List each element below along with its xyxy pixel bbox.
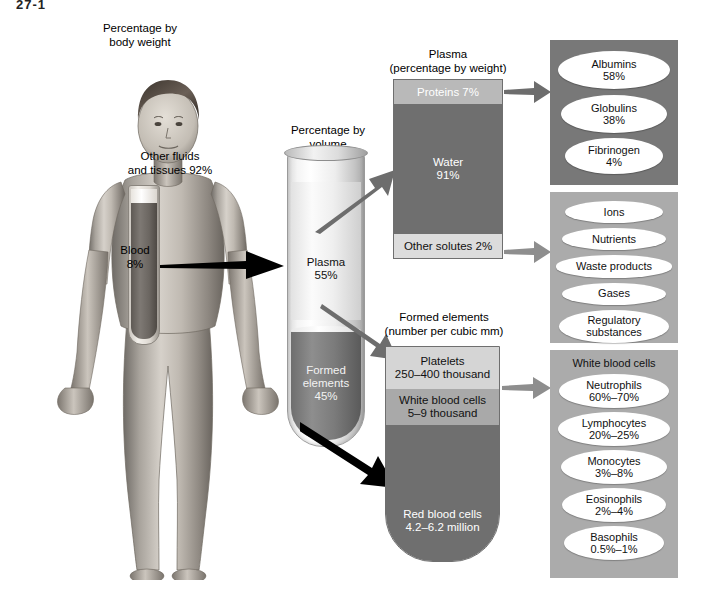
gases-name: Gases [598, 287, 630, 300]
formed-caption-line2: (number per cubic mm) [368, 325, 520, 339]
rbc-value: 4.2–6.2 million [403, 521, 482, 534]
plasma-proteins-panel: Albumins 58% Globulins 38% Fibrinogen 4% [550, 40, 678, 185]
lymphocytes-value: 20%–25% [589, 429, 639, 442]
blood-label-line1: Blood [105, 244, 165, 258]
nutrients-name: Nutrients [592, 233, 636, 246]
tube-plasma-value: 55% [287, 269, 365, 282]
ions-name: Ions [604, 206, 625, 219]
formed-segment-red-blood-cells: Red blood cells 4.2–6.2 million [386, 425, 499, 561]
regulatory-name: Regulatory [587, 314, 640, 327]
plasma-caption-line1: Plasma [378, 48, 518, 62]
fibrinogen-value: 4% [606, 156, 622, 169]
wbc-value: 5–9 thousand [399, 407, 486, 420]
neutrophils-value: 60%–70% [589, 391, 639, 404]
monocytes-name: Monocytes [587, 455, 640, 468]
globulins-name: Globulins [591, 102, 637, 115]
other-fluids-line1: Other fluids [95, 150, 245, 164]
pill-basophils: Basophils 0.5%–1% [564, 526, 664, 560]
basophils-value: 0.5%–1% [590, 543, 637, 556]
plasma-solutes-label: Other solutes 2% [404, 240, 492, 253]
fibrinogen-name: Fibrinogen [588, 144, 640, 157]
plasma-segment-other-solutes: Other solutes 2% [394, 234, 502, 258]
arrow-tube-to-plasma-box [313, 168, 397, 236]
basophils-name: Basophils [590, 531, 638, 544]
tube-formed-label: Formed elements 45% [287, 364, 365, 403]
plasma-segment-water: Water 91% [394, 104, 502, 234]
tube-rim [284, 145, 368, 161]
blood-label-line2: 8% [105, 258, 165, 272]
human-body-illustration [55, 70, 285, 580]
figure-number: 27-1 [16, 0, 46, 9]
platelets-label: Platelets [395, 355, 490, 368]
globulins-value: 38% [603, 114, 625, 127]
pill-neutrophils: Neutrophils 60%–70% [559, 374, 669, 408]
albumins-value: 58% [603, 70, 625, 83]
plasma-caption-line2: (percentage by weight) [378, 62, 518, 76]
pill-monocytes: Monocytes 3%–8% [561, 450, 667, 484]
plasma-water-label: Water [433, 156, 463, 169]
pill-fibrinogen: Fibrinogen 4% [565, 138, 663, 174]
plasma-composition-bar: Proteins 7% Water 91% Other solutes 2% [393, 79, 503, 259]
white-blood-cells-panel: White blood cells Neutrophils 60%–70% Ly… [550, 350, 678, 578]
neutrophils-name: Neutrophils [586, 379, 642, 392]
formed-caption-line1: Formed elements [368, 311, 520, 325]
body-caption-line1: Percentage by [60, 22, 220, 36]
plasma-proteins-label: Proteins 7% [417, 86, 479, 99]
plasma-water-value: 91% [433, 169, 463, 182]
monocytes-value: 3%–8% [595, 467, 633, 480]
body-caption-line2: body weight [60, 36, 220, 50]
plasma-box-caption: Plasma (percentage by weight) [378, 48, 518, 75]
wbc-label: White blood cells [399, 394, 486, 407]
pill-ions: Ions [565, 201, 663, 223]
pill-waste-products: Waste products [556, 255, 672, 277]
wbc-panel-title: White blood cells [572, 357, 655, 370]
lymphocytes-name: Lymphocytes [582, 417, 646, 430]
pill-albumins: Albumins 58% [558, 51, 670, 89]
arrow-wbc-to-panel [502, 376, 552, 400]
pill-gases: Gases [562, 283, 666, 305]
formed-box-caption: Formed elements (number per cubic mm) [368, 311, 520, 338]
pill-regulatory-substances: Regulatory substances [559, 310, 669, 343]
arrow-solutes-to-panel [504, 240, 552, 264]
label-other-fluids-tissues: Other fluids and tissues 92% [95, 150, 245, 177]
formed-elements-bar: Platelets 250–400 thousand White blood c… [385, 346, 500, 562]
other-solutes-panel: Ions Nutrients Waste products Gases Regu… [550, 192, 678, 343]
eosinophils-name: Eosinophils [586, 493, 642, 506]
plasma-segment-proteins: Proteins 7% [394, 80, 502, 104]
tube-caption-line1: Percentage by [282, 124, 374, 138]
tube-formed-line2: elements [287, 377, 365, 390]
eosinophils-value: 2%–4% [595, 505, 633, 518]
label-blood-percentage: Blood 8% [105, 244, 165, 271]
pill-lymphocytes: Lymphocytes 20%–25% [558, 412, 670, 446]
arrow-tube-bottom-to-formed-box [300, 420, 398, 492]
tube-formed-value: 45% [287, 390, 365, 403]
tube-formed-line1: Formed [287, 364, 365, 377]
formed-segment-platelets: Platelets 250–400 thousand [386, 347, 499, 389]
regulatory-value: substances [586, 326, 642, 339]
tube-plasma-name: Plasma [287, 256, 365, 269]
pill-globulins: Globulins 38% [561, 95, 667, 133]
formed-segment-white-blood-cells: White blood cells 5–9 thousand [386, 389, 499, 425]
albumins-name: Albumins [591, 58, 636, 71]
arrow-body-to-tube [160, 247, 285, 281]
body-panel-caption: Percentage by body weight [60, 22, 220, 49]
rbc-label: Red blood cells [403, 508, 482, 521]
tube-plasma-label: Plasma 55% [287, 256, 365, 282]
arrow-proteins-to-panel [504, 80, 552, 104]
pill-eosinophils: Eosinophils 2%–4% [562, 488, 666, 522]
waste-products-name: Waste products [576, 260, 652, 273]
platelets-value: 250–400 thousand [395, 368, 490, 381]
other-fluids-line2: and tissues 92% [95, 164, 245, 178]
pill-nutrients: Nutrients [562, 228, 666, 250]
